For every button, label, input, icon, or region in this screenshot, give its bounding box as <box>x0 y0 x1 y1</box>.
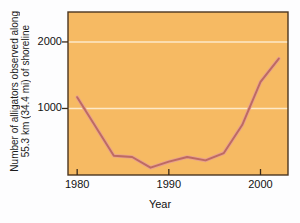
x-tick-label-1990: 1990 <box>147 178 191 190</box>
x-axis-title: Year <box>32 198 288 210</box>
plot-border <box>68 12 288 175</box>
x-tick-label-2000: 2000 <box>239 178 283 190</box>
y-tick-label-2000: 2000 <box>26 35 62 47</box>
data-line-group <box>77 59 279 168</box>
plot-background <box>68 12 288 175</box>
series-line-0 <box>77 59 279 168</box>
axis-ticks <box>62 42 261 175</box>
y-axis-title: Number of alligators observed along 55.3… <box>0 0 40 183</box>
y-axis-title-line-1: Number of alligators observed along <box>10 11 20 172</box>
x-tick-label-1980: 1980 <box>55 178 99 190</box>
y-tick-label-1000: 1000 <box>26 101 62 113</box>
gridlines <box>68 42 288 109</box>
chart-figure: Number of alligators observed along 55.3… <box>0 0 300 223</box>
series-highlight-0 <box>77 59 279 168</box>
plot-area-group <box>62 12 288 175</box>
